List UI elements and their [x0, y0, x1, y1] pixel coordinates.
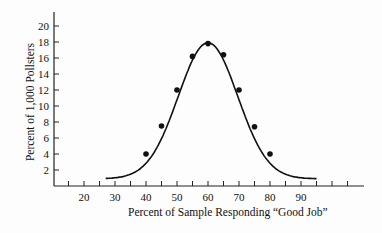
x-axis-label: Percent of Sample Responding “Good Job”	[128, 206, 328, 218]
y-tick-label: 4	[44, 148, 50, 160]
x-tick-label: 20	[79, 191, 91, 203]
y-axis-label: Percent of 1,000 Pollsters	[24, 42, 36, 162]
data-point	[190, 54, 196, 60]
x-tick-label: 70	[234, 191, 246, 203]
y-tick-label: 20	[38, 20, 50, 32]
y-tick-label: 14	[38, 68, 50, 80]
data-point	[267, 151, 273, 157]
x-tick-label: 90	[296, 191, 308, 203]
data-point	[252, 124, 258, 130]
y-tick-label: 2	[44, 164, 50, 176]
data-point	[221, 52, 227, 58]
data-point	[174, 87, 180, 93]
y-tick-label: 18	[38, 36, 50, 48]
data-point	[143, 151, 149, 157]
data-point	[205, 41, 211, 47]
y-tick-label: 6	[44, 132, 50, 144]
y-tick-label: 8	[44, 116, 50, 128]
y-tick-label: 10	[38, 100, 50, 112]
data-point	[236, 87, 242, 93]
x-tick-label: 50	[172, 191, 184, 203]
y-tick-label: 16	[38, 52, 50, 64]
chart: 20304050607080902468101214161820	[0, 0, 382, 233]
data-point	[159, 123, 165, 129]
x-tick-label: 60	[203, 191, 215, 203]
y-tick-label: 12	[38, 84, 49, 96]
bell-curve	[106, 43, 317, 179]
x-tick-label: 80	[265, 191, 277, 203]
x-tick-label: 30	[110, 191, 122, 203]
x-tick-label: 40	[141, 191, 153, 203]
